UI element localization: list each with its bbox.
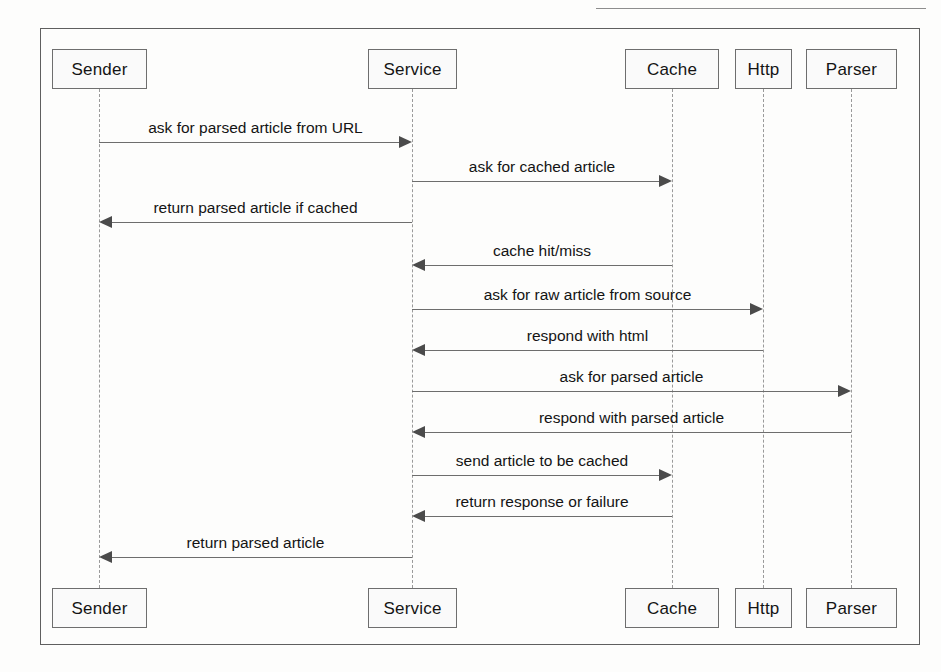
message-line-5 bbox=[412, 309, 752, 310]
page-canvas: SenderServiceCacheHttpParserSenderServic… bbox=[0, 0, 941, 672]
message-label-8: respond with parsed article bbox=[412, 410, 851, 426]
message-arrowhead-11 bbox=[99, 551, 112, 563]
header-participant-cache[interactable]: Cache bbox=[625, 49, 719, 89]
footer-participant-cache[interactable]: Cache bbox=[625, 588, 719, 628]
message-line-10 bbox=[423, 516, 672, 517]
sequence-diagram: SenderServiceCacheHttpParserSenderServic… bbox=[0, 0, 941, 672]
message-line-4 bbox=[423, 265, 672, 266]
message-arrowhead-2 bbox=[659, 175, 672, 187]
header-participant-sender[interactable]: Sender bbox=[52, 49, 147, 89]
message-arrowhead-4 bbox=[412, 259, 425, 271]
message-label-11: return parsed article bbox=[99, 535, 412, 551]
participant-label: Service bbox=[383, 600, 441, 617]
message-label-4: cache hit/miss bbox=[412, 243, 672, 259]
message-arrowhead-9 bbox=[659, 469, 672, 481]
message-label-2: ask for cached article bbox=[412, 159, 672, 175]
header-participant-parser[interactable]: Parser bbox=[806, 49, 897, 89]
footer-participant-service[interactable]: Service bbox=[368, 588, 457, 628]
message-label-5: ask for raw article from source bbox=[412, 287, 763, 303]
message-line-9 bbox=[412, 475, 661, 476]
lifeline-http bbox=[763, 89, 764, 588]
lifeline-parser bbox=[851, 89, 852, 588]
participant-label: Cache bbox=[647, 61, 697, 78]
message-line-11 bbox=[110, 557, 412, 558]
participant-label: Cache bbox=[647, 600, 697, 617]
message-arrowhead-6 bbox=[412, 344, 425, 356]
message-arrowhead-3 bbox=[99, 216, 112, 228]
participant-label: Sender bbox=[71, 61, 127, 78]
message-label-3: return parsed article if cached bbox=[99, 200, 412, 216]
message-label-7: ask for parsed article bbox=[412, 369, 851, 385]
participant-label: Parser bbox=[826, 61, 877, 78]
message-line-1 bbox=[99, 142, 401, 143]
footer-participant-sender[interactable]: Sender bbox=[52, 588, 147, 628]
participant-label: Sender bbox=[71, 600, 127, 617]
footer-participant-parser[interactable]: Parser bbox=[806, 588, 897, 628]
message-line-7 bbox=[412, 391, 840, 392]
message-arrowhead-1 bbox=[399, 136, 412, 148]
message-arrowhead-7 bbox=[838, 385, 851, 397]
header-participant-service[interactable]: Service bbox=[368, 49, 457, 89]
message-label-6: respond with html bbox=[412, 328, 763, 344]
message-line-2 bbox=[412, 181, 661, 182]
participant-label: Service bbox=[383, 61, 441, 78]
message-label-9: send article to be cached bbox=[412, 453, 672, 469]
participant-label: Http bbox=[748, 600, 780, 617]
header-participant-http[interactable]: Http bbox=[735, 49, 792, 89]
message-line-3 bbox=[110, 222, 412, 223]
message-label-1: ask for parsed article from URL bbox=[99, 120, 412, 136]
lifeline-sender bbox=[99, 89, 100, 588]
footer-participant-http[interactable]: Http bbox=[735, 588, 792, 628]
message-arrowhead-10 bbox=[412, 510, 425, 522]
message-arrowhead-8 bbox=[412, 426, 425, 438]
message-line-8 bbox=[423, 432, 851, 433]
message-arrowhead-5 bbox=[750, 303, 763, 315]
participant-label: Http bbox=[748, 61, 780, 78]
message-line-6 bbox=[423, 350, 763, 351]
participant-label: Parser bbox=[826, 600, 877, 617]
message-label-10: return response or failure bbox=[412, 494, 672, 510]
